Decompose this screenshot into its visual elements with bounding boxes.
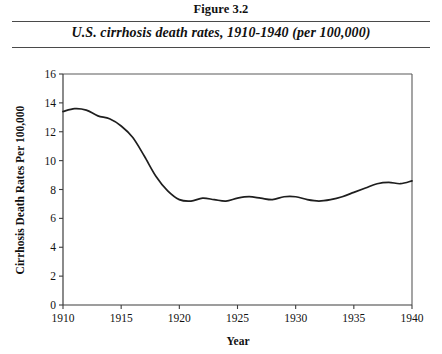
figure-container: Figure 3.2 U.S. cirrhosis death rates, 1…	[0, 0, 442, 354]
y-tick-label: 2	[50, 270, 56, 282]
y-tick-label: 16	[45, 68, 57, 80]
y-tick-label: 4	[50, 241, 56, 253]
y-axis-title: Cirrhosis Death Rates Per 100,000	[14, 105, 26, 274]
y-tick-label: 0	[50, 299, 56, 311]
x-tick-label: 1915	[110, 312, 133, 324]
line-chart: 0246810121416 19101915192019251930193519…	[0, 0, 442, 354]
y-tick-label: 10	[45, 155, 57, 167]
x-tick-label: 1930	[284, 312, 307, 324]
x-tick-label: 1910	[52, 312, 75, 324]
cirrhosis-death-rate-series	[63, 109, 412, 202]
x-tick-label: 1935	[342, 312, 365, 324]
y-tick-label: 8	[50, 184, 56, 196]
x-tick-label: 1925	[226, 312, 249, 324]
y-tick-label: 12	[45, 126, 57, 138]
y-axis-ticks: 0246810121416	[45, 68, 64, 311]
x-axis-title: Year	[227, 335, 250, 347]
y-tick-label: 14	[45, 97, 57, 109]
y-tick-label: 6	[50, 212, 56, 224]
x-tick-label: 1940	[401, 312, 424, 324]
x-axis-ticks: 1910191519201925193019351940	[52, 305, 424, 324]
x-tick-label: 1920	[168, 312, 191, 324]
